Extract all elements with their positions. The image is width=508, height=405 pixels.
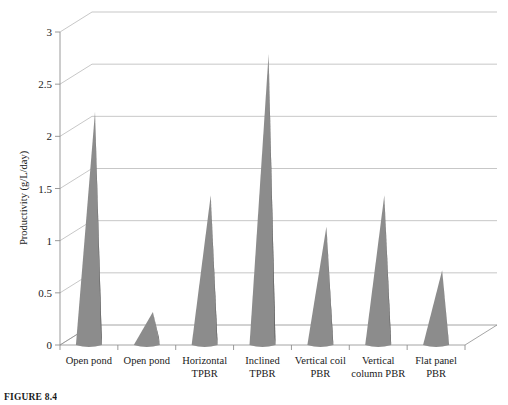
y-tick-label: 0.5 bbox=[38, 287, 52, 299]
y-tick-label: 2.5 bbox=[38, 78, 52, 90]
category-label: Vertical coil bbox=[295, 355, 346, 366]
y-tick-label: 3 bbox=[47, 26, 53, 38]
category-label: PBR bbox=[310, 368, 330, 379]
gridlines bbox=[60, 12, 497, 345]
y-tick-label: 1.5 bbox=[38, 183, 52, 195]
y-tick-label: 2 bbox=[47, 130, 53, 142]
category-label: Horizontal bbox=[182, 355, 227, 366]
category-label: Open pond bbox=[66, 355, 113, 366]
category-labels: Open pondOpen pondHorizontalTPBRInclined… bbox=[66, 355, 457, 379]
category-label: Flat panel bbox=[415, 355, 457, 366]
category-label: column PBR bbox=[351, 368, 405, 379]
category-label: Vertical bbox=[362, 355, 395, 366]
figure-caption: FIGURE 8.4 bbox=[4, 392, 57, 405]
cone-bar bbox=[76, 112, 102, 347]
cone-bar bbox=[365, 195, 391, 347]
productivity-cone-chart: 00.511.522.53 Open pondOpen pondHorizont… bbox=[0, 0, 508, 405]
category-label: TPBR bbox=[249, 368, 275, 379]
category-label: Open pond bbox=[124, 355, 171, 366]
value-axis bbox=[55, 32, 60, 345]
category-label: TPBR bbox=[192, 368, 218, 379]
cone-bar bbox=[423, 270, 449, 347]
cone-bar bbox=[134, 312, 160, 347]
category-label: Inclined bbox=[245, 355, 280, 366]
cone-bar bbox=[192, 195, 218, 347]
y-axis-title: Productivity (g/L/day) bbox=[18, 150, 30, 245]
figure-container: 00.511.522.53 Open pondOpen pondHorizont… bbox=[0, 0, 508, 405]
cone-bar bbox=[307, 226, 333, 347]
y-tick-label: 0 bbox=[47, 339, 53, 351]
y-tick-label: 1 bbox=[47, 235, 53, 247]
y-tick-labels: 00.511.522.53 bbox=[38, 26, 52, 351]
cone-bar bbox=[250, 54, 276, 347]
category-label: PBR bbox=[426, 368, 446, 379]
cone-bars bbox=[76, 54, 449, 347]
